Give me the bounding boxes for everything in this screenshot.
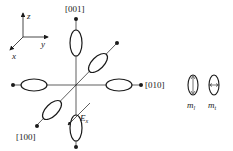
z-axis-label: z (26, 11, 31, 21)
dot-right (139, 83, 143, 87)
legend-ml: ml (187, 75, 198, 111)
dot-left (11, 83, 15, 87)
direction-label-001: [001] (65, 4, 85, 14)
direction-label-010: [010] (145, 80, 165, 90)
ml-label: ml (187, 100, 196, 111)
mt-label: mt (208, 100, 217, 111)
x-axis-label: x (11, 51, 16, 61)
ellipse-top (70, 30, 82, 56)
dot-bottom (74, 145, 78, 149)
ellipse-right (106, 79, 132, 91)
dot-diag-upper (115, 41, 119, 45)
x-axis-arrow (10, 37, 23, 50)
legend-mt: mt (208, 75, 219, 111)
ellipse-diag-upper (85, 50, 110, 75)
ellipse-left (21, 79, 47, 91)
dot-top (74, 17, 78, 21)
dot-diag-lower (35, 124, 39, 128)
field-label: Ex (79, 113, 89, 124)
y-axis-label: y (40, 39, 45, 49)
crystal-direction-diagram: z y x [001] [010] [100] Ex ml (0, 0, 233, 151)
direction-label-100: [100] (16, 132, 36, 142)
